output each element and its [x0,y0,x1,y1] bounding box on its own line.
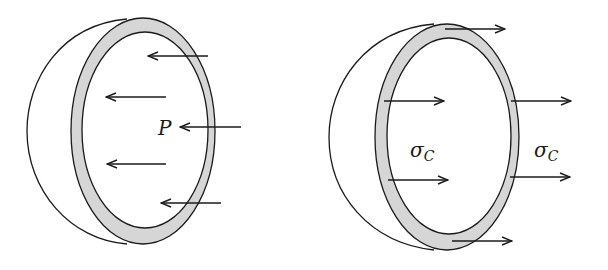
right-wall-inner [387,38,511,234]
pressure-label: P [157,116,172,140]
left-hemisphere-figure: P [27,18,241,244]
right-hemisphere-figure: σC σC [329,24,571,250]
diagram-canvas: P σC σC [0,0,608,270]
pressure-vessel-diagram: P σC σC [0,0,608,270]
stress-label-outer: σC [534,138,559,164]
left-wall-inner [82,32,208,228]
